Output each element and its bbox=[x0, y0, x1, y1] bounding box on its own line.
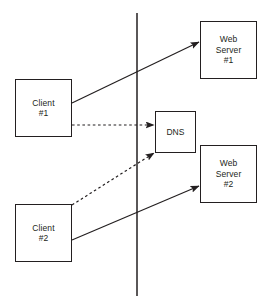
connection-client2-to-webserver2 bbox=[72, 186, 199, 240]
node-web-server-2[interactable]: WebServer#2 bbox=[200, 145, 257, 203]
node-label-line: Web bbox=[220, 158, 238, 169]
connection-client2-to-dns bbox=[72, 153, 154, 205]
connection-client1-to-webserver1 bbox=[72, 42, 199, 103]
node-dns[interactable]: DNS bbox=[155, 111, 196, 153]
node-client-1[interactable]: Client#1 bbox=[15, 79, 72, 137]
node-label-line: Client bbox=[32, 223, 54, 234]
node-label-line: #1 bbox=[224, 55, 234, 66]
node-label-line: #2 bbox=[224, 179, 234, 190]
node-label-line: DNS bbox=[166, 127, 184, 138]
node-label-line: Server bbox=[216, 45, 242, 56]
node-label-line: #2 bbox=[39, 233, 49, 244]
node-web-server-1[interactable]: WebServer#1 bbox=[200, 21, 257, 79]
node-label-line: #1 bbox=[39, 108, 49, 119]
node-client-2[interactable]: Client#2 bbox=[15, 204, 72, 262]
node-label-line: Server bbox=[216, 169, 242, 180]
network-diagram: Client#1 Client#2 DNS WebServer#1 WebSer… bbox=[0, 0, 270, 308]
node-label-line: Web bbox=[220, 34, 238, 45]
node-label-line: Client bbox=[32, 98, 54, 109]
